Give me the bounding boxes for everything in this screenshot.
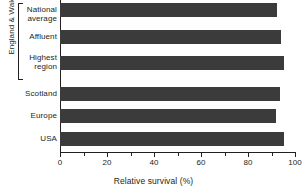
y-axis-line <box>60 0 61 152</box>
category-label-line: average <box>1 14 57 23</box>
x-tick-minor-10 <box>84 153 85 156</box>
x-tick-label-80: 80 <box>236 158 260 167</box>
category-label-line: Highest <box>1 53 57 62</box>
category-label-line: region <box>1 62 57 71</box>
x-tick-label-40: 40 <box>142 158 166 167</box>
bar-europe <box>60 109 276 123</box>
plot-area <box>60 0 295 152</box>
bar-scotland <box>60 87 280 101</box>
x-tick-60 <box>201 153 202 157</box>
category-label-usa: USA <box>1 134 57 143</box>
bar-national-average <box>60 3 277 17</box>
x-tick-minor-70 <box>225 153 226 156</box>
x-tick-0 <box>60 153 61 157</box>
category-label-scotland: Scotland <box>1 89 57 98</box>
x-tick-minor-90 <box>272 153 273 156</box>
x-tick-minor-30 <box>131 153 132 156</box>
category-label-national-average: National average <box>1 5 57 23</box>
category-label-affluent: Affluent <box>1 32 57 41</box>
category-label-highest-region: Highest region <box>1 53 57 71</box>
x-tick-minor-50 <box>178 153 179 156</box>
x-tick-20 <box>107 153 108 157</box>
bar-usa <box>60 132 284 146</box>
bar-affluent <box>60 30 281 44</box>
category-label-line: Europe <box>1 111 57 120</box>
x-tick-label-0: 0 <box>48 158 72 167</box>
category-label-line: USA <box>1 134 57 143</box>
x-tick-label-20: 20 <box>95 158 119 167</box>
x-tick-80 <box>248 153 249 157</box>
category-label-line: Scotland <box>1 89 57 98</box>
category-label-europe: Europe <box>1 111 57 120</box>
x-tick-40 <box>154 153 155 157</box>
category-label-line: Affluent <box>1 32 57 41</box>
x-tick-label-100: 100 <box>283 158 307 167</box>
x-tick-100 <box>295 153 296 157</box>
bar-highest-region <box>60 56 284 70</box>
category-label-line: National <box>1 5 57 14</box>
x-axis-title: Relative survival (%) <box>0 176 307 186</box>
x-tick-label-60: 60 <box>189 158 213 167</box>
relative-survival-bar-chart: England & Wales National average Affluen… <box>0 0 307 194</box>
